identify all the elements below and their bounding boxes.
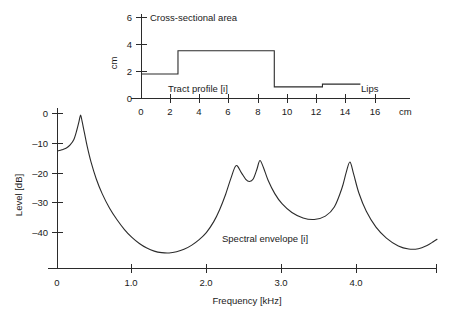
x-ticklabel-2: 2	[167, 106, 172, 117]
x-ticklabel-1khz: 1.0	[124, 277, 137, 288]
x-ticklabel-16: 16	[370, 106, 381, 117]
x-ticklabel-0khz: 0	[54, 277, 59, 288]
y-ticklabel-minus30db: –30	[32, 197, 48, 208]
bottom-chart-x-ticklabels: 0 1.0 2.0 3.0 4.0	[54, 277, 362, 288]
y-ticklabel-6: 6	[127, 12, 132, 23]
tract-profile-curve	[142, 51, 361, 87]
figure-svg: Cross-sectional area cm 6 4 2 0	[0, 0, 450, 318]
x-ticklabel-4khz: 4.0	[349, 277, 362, 288]
y-ticklabel-0db: 0	[43, 108, 48, 119]
spectral-envelope-annotation: Spectral envelope [i]	[222, 233, 308, 244]
bottom-chart-x-axis-label: Frequency [kHz]	[212, 295, 281, 306]
bottom-chart-y-ticklabels: 0 –10 –20 –30 –40	[32, 108, 48, 238]
top-chart-y-axis-label: cm	[108, 57, 119, 70]
y-ticklabel-minus10db: –10	[32, 138, 48, 149]
top-chart-x-unit-label: cm	[399, 106, 412, 117]
bottom-chart-y-axis-label: Level [dB]	[13, 174, 24, 216]
x-ticklabel-0: 0	[138, 106, 143, 117]
x-ticklabel-12: 12	[311, 106, 322, 117]
top-chart-title: Cross-sectional area	[150, 12, 238, 23]
top-chart-cross-sectional-area: Cross-sectional area cm 6 4 2 0	[108, 12, 412, 117]
bottom-chart-axes	[48, 108, 437, 269]
x-ticklabel-4: 4	[196, 106, 201, 117]
bottom-chart-spectral-envelope: Level [dB] 0 –10 –20 –30 –40	[13, 108, 437, 306]
tract-profile-annotation: Tract profile [i]	[168, 83, 228, 94]
y-ticklabel-0: 0	[127, 93, 132, 104]
y-ticklabel-4: 4	[127, 39, 132, 50]
x-ticklabel-6: 6	[225, 106, 230, 117]
top-chart-y-ticklabels: 6 4 2 0	[127, 12, 132, 104]
y-ticklabel-minus20db: –20	[32, 168, 48, 179]
x-ticklabel-14: 14	[340, 106, 351, 117]
x-ticklabel-8: 8	[255, 106, 260, 117]
y-ticklabel-2: 2	[127, 66, 132, 77]
x-ticklabel-10: 10	[282, 106, 293, 117]
figure-container: Cross-sectional area cm 6 4 2 0	[0, 0, 450, 318]
lips-annotation: Lips	[361, 83, 379, 94]
x-ticklabel-2khz: 2.0	[199, 277, 212, 288]
y-ticklabel-minus40db: –40	[32, 227, 48, 238]
x-ticklabel-3khz: 3.0	[274, 277, 287, 288]
top-chart-x-ticklabels: 0 2 4 6 8 10 12 14 16 cm	[138, 106, 411, 117]
